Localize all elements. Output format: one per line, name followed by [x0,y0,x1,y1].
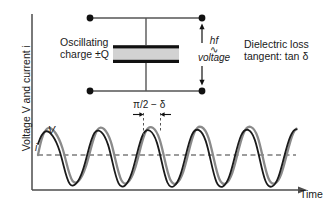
capacitor-charge-label: Oscillating charge ±Q [60,36,109,61]
dielectric-loss-line2: tangent: tan δ [244,50,309,62]
y-axis-label: Voltage V and current i [20,28,32,168]
current-curve-label: i [35,142,37,154]
node-top-right [199,15,206,22]
x-axis-label: Time [300,188,323,200]
voltage-curve-label: V [48,124,55,136]
hf-voltage-label: hf ∿ voltage [196,36,232,63]
dielectric-loss-label: Dielectric loss tangent: tan δ [244,38,309,63]
node-bottom-right [199,88,206,95]
capacitor-dielectric [113,48,179,60]
capacitor-charge-line1: Oscillating [60,36,109,48]
node-top-left [87,15,94,22]
dielectric-loss-line1: Dielectric loss [244,38,309,50]
phase-difference-label: π/2 − δ [133,99,165,111]
capacitor-bottom-plate [113,60,179,63]
figure-canvas [0,0,333,212]
capacitor-charge-line2: charge ±Q [60,48,109,60]
dielectric-loss-figure: Oscillating charge ±Q hf ∿ voltage Diele… [0,0,333,212]
hf-voltage-line2: voltage [198,52,230,63]
capacitor-top-plate [113,45,179,48]
node-bottom-left [87,88,94,95]
